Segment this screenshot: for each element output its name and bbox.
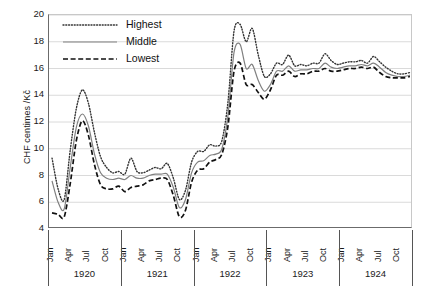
y-tick-label: 14 <box>22 89 44 99</box>
x-tick-label: Jul <box>227 250 237 262</box>
year-label: 1921 <box>121 268 194 279</box>
y-tick-label: 18 <box>22 36 44 46</box>
y-tick-label: 20 <box>22 9 44 19</box>
legend-label: Lowest <box>126 53 159 64</box>
x-tick-label: Jul <box>81 250 91 262</box>
x-tick-label: Jul <box>154 250 164 262</box>
legend-item-lowest[interactable]: Lowest <box>62 50 212 67</box>
x-tick-label: Oct <box>172 248 182 262</box>
x-axis-month-labels: JanAprJulOctJanAprJulOctJanAprJulOctJanA… <box>48 230 412 262</box>
y-tick-label: 8 <box>22 170 44 180</box>
x-axis-year-labels: 19201921192219231924 <box>48 262 412 286</box>
x-tick-label: Oct <box>318 248 328 262</box>
y-tick-label: 12 <box>22 116 44 126</box>
x-tick-label: Oct <box>100 248 110 262</box>
x-tick-label: Oct <box>245 248 255 262</box>
legend-swatch-dotted-icon <box>62 19 118 31</box>
year-label: 1923 <box>266 268 339 279</box>
y-axis-tick-labels: 468101214161820 <box>20 0 44 290</box>
x-tick-label: Jan <box>45 247 55 262</box>
year-separator <box>412 230 413 286</box>
x-tick-label: Jan <box>263 247 273 262</box>
year-label: 1924 <box>339 268 412 279</box>
x-tick-label: Apr <box>209 248 219 262</box>
x-tick-label: Apr <box>354 248 364 262</box>
x-tick-label: Jul <box>373 250 383 262</box>
x-tick-label: Apr <box>136 248 146 262</box>
legend-swatch-dashed-icon <box>62 53 118 65</box>
x-tick-label: Oct <box>391 248 401 262</box>
y-tick-label: 10 <box>22 143 44 153</box>
x-tick-label: Apr <box>63 248 73 262</box>
legend-swatch-solid-icon <box>62 36 118 48</box>
x-tick-label: Jul <box>300 250 310 262</box>
chart-figure: CHF centimes /Kč 468101214161820 Highest… <box>0 0 422 290</box>
y-tick-label: 6 <box>22 196 44 206</box>
x-tick-label: Jan <box>336 247 346 262</box>
x-tick-label: Jan <box>191 247 201 262</box>
x-tick-label: Apr <box>282 248 292 262</box>
x-tick-label: Jan <box>118 247 128 262</box>
legend-label: Middle <box>126 36 157 47</box>
y-tick-label: 16 <box>22 63 44 73</box>
legend-label: Highest <box>126 19 162 30</box>
legend: HighestMiddleLowest <box>62 16 212 67</box>
y-tick-label: 4 <box>22 223 44 233</box>
year-label: 1920 <box>48 268 121 279</box>
year-label: 1922 <box>194 268 267 279</box>
legend-item-middle[interactable]: Middle <box>62 33 212 50</box>
legend-item-highest[interactable]: Highest <box>62 16 212 33</box>
